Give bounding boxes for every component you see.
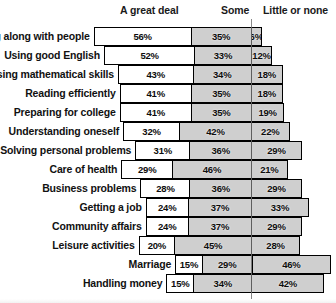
column-header-row: A great deal Some Little or none (0, 0, 336, 26)
bar-segment-little: 6% (251, 28, 261, 45)
row-label: Leisure activities (52, 239, 135, 251)
bar-segment-some: 33% (194, 47, 251, 64)
row-label: Reading efficiently (25, 87, 116, 99)
bar-segment-little: 28% (251, 237, 299, 254)
segment-value-label: 35% (212, 88, 230, 99)
bar-segment-great: 31% (136, 142, 189, 159)
segment-value-label: 29% (267, 183, 285, 194)
segment-value-label: 35% (212, 31, 230, 42)
bar-segment-great: 28% (141, 180, 189, 197)
row-label: Community affairs (52, 220, 142, 232)
bar-segment-great: 52% (105, 47, 194, 64)
stacked-bar: 15%34%42% (166, 274, 324, 293)
bar-segment-great: 56% (95, 28, 191, 45)
segment-value-label: 31% (154, 145, 172, 156)
bar-segment-great: 15% (167, 275, 193, 292)
stacked-bar: 56%35%6% (94, 27, 262, 46)
segment-value-label: 36% (212, 145, 230, 156)
stacked-bar: 24%37%33% (146, 198, 309, 217)
segment-value-label: 36% (212, 183, 230, 194)
segment-value-label: 15% (171, 278, 189, 289)
boundary-tick-mark (251, 19, 252, 27)
segment-value-label: 19% (258, 107, 276, 118)
bar-segment-some: 45% (174, 237, 251, 254)
segment-value-label: 37% (211, 202, 229, 213)
column-header-little-or-none: Little or none (263, 4, 328, 16)
stacked-bar: 28%36%29% (140, 179, 301, 198)
bar-segment-some: 37% (188, 199, 251, 216)
segment-value-label: 33% (214, 50, 232, 61)
row-label: Preparing for college (14, 106, 116, 118)
row-label: Using mathematical skills (0, 68, 114, 80)
chart-row: Solving personal problems31%36%29% (0, 141, 336, 160)
segment-value-label: 29% (218, 259, 236, 270)
bar-segment-little: 12% (251, 47, 272, 64)
chart-row: Reading efficiently41%35%18% (0, 84, 336, 103)
segment-value-label: 35% (212, 107, 230, 118)
segment-value-label: 15% (180, 259, 198, 270)
chart-row: Marriage15%29%46% (0, 255, 336, 274)
bar-segment-some: 36% (189, 180, 251, 197)
row-label: Business problems (42, 182, 136, 194)
segment-value-label: 18% (258, 69, 276, 80)
bar-segment-little: 21% (251, 161, 287, 178)
bar-segment-some: 35% (191, 85, 251, 102)
bar-segment-little: 29% (251, 180, 301, 197)
segment-value-label: 46% (203, 164, 221, 175)
stacked-bar: 29%46%21% (121, 160, 288, 179)
bar-segment-great: 29% (122, 161, 172, 178)
segment-value-label: 20% (148, 240, 166, 251)
column-header-a-great-deal: A great deal (120, 4, 179, 16)
stacked-bar: 52%33%12% (104, 46, 272, 65)
bar-segment-little: 42% (251, 275, 323, 292)
bar-segment-great: 24% (147, 199, 188, 216)
chart-row: Business problems28%36%29% (0, 179, 336, 198)
chart-row: Community affairs24%37%29% (0, 217, 336, 236)
chart-row: Care of health29%46%21% (0, 160, 336, 179)
bar-segment-great: 15% (176, 256, 202, 273)
stacked-bar: 15%29%46% (175, 255, 331, 274)
bar-segment-some: 46% (172, 161, 251, 178)
segment-value-label: 32% (142, 126, 160, 137)
bar-segment-little: 22% (251, 123, 289, 140)
bar-segment-some: 35% (191, 104, 251, 121)
chart-rows: Getting along with people56%35%6%Using g… (0, 27, 336, 293)
segment-value-label: 29% (138, 164, 156, 175)
bar-segment-little: 19% (251, 104, 284, 121)
bar-segment-some: 34% (193, 66, 251, 83)
segment-value-label: 37% (211, 221, 229, 232)
bar-segment-some: 42% (179, 123, 251, 140)
bar-segment-great: 41% (121, 85, 191, 102)
segment-value-label: 41% (147, 107, 165, 118)
chart-row: Preparing for college41%35%19% (0, 103, 336, 122)
segment-value-label: 43% (147, 69, 165, 80)
chart-row: Getting a job24%37%33% (0, 198, 336, 217)
row-label: Marriage (129, 258, 172, 270)
stacked-bar-chart: A great deal Some Little or none Getting… (0, 0, 336, 303)
stacked-bar: 41%35%18% (120, 84, 283, 103)
segment-value-label: 46% (282, 259, 300, 270)
page-edge-decoration (0, 299, 336, 303)
stacked-bar: 20%45%28% (139, 236, 300, 255)
bar-segment-great: 41% (121, 104, 191, 121)
chart-row: Using good English52%33%12% (0, 46, 336, 65)
stacked-bar: 24%37%29% (146, 217, 302, 236)
segment-value-label: 24% (158, 202, 176, 213)
segment-value-label: 33% (271, 202, 289, 213)
segment-value-label: 12% (252, 50, 270, 61)
chart-row: Leisure activities20%45%28% (0, 236, 336, 255)
row-label: Getting a job (79, 201, 141, 213)
segment-value-label: 52% (140, 50, 158, 61)
segment-value-label: 29% (267, 221, 285, 232)
stacked-bar: 43%34%18% (118, 65, 283, 84)
stacked-bar: 31%36%29% (135, 141, 302, 160)
bar-segment-some: 36% (189, 142, 251, 159)
row-label: Using good English (4, 49, 100, 61)
segment-value-label: 34% (213, 69, 231, 80)
stacked-bar: 32%42%22% (123, 122, 290, 141)
bar-segment-great: 20% (140, 237, 174, 254)
bar-segment-great: 24% (147, 218, 188, 235)
row-label: Getting along with people (0, 30, 90, 42)
segment-value-label: 42% (206, 126, 224, 137)
chart-row: Using mathematical skills43%34%18% (0, 65, 336, 84)
